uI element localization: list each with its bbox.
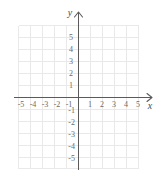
coordinate-plane-svg: -5 -4 -3 -2 -1 1 2 3 4 5 5 4 3 2 1 -1 -2…	[0, 0, 165, 173]
x-tick-label: 5	[136, 100, 140, 109]
x-tick-label: -3	[42, 100, 49, 109]
y-tick-label: 5	[69, 33, 73, 42]
y-tick-label: 1	[69, 81, 73, 90]
y-tick-label: -2	[68, 118, 75, 127]
y-tick-label: 2	[69, 69, 73, 78]
x-tick-label: -4	[30, 100, 37, 109]
y-axis-label: y	[67, 7, 73, 18]
y-tick-label: -3	[68, 130, 75, 139]
x-tick-label: -5	[18, 100, 25, 109]
y-tick-label: 3	[69, 57, 73, 66]
x-tick-label: -2	[54, 100, 61, 109]
x-axis-label: x	[147, 100, 153, 111]
y-tick-label: -5	[68, 154, 75, 163]
x-tick-label: 3	[112, 100, 116, 109]
axis-names-group: x y	[67, 7, 153, 111]
x-tick-label: 4	[124, 100, 128, 109]
x-tick-label: 1	[88, 100, 92, 109]
y-tick-label: -1	[68, 106, 75, 115]
y-tick-label: 4	[69, 45, 73, 54]
coordinate-grid-figure: -5 -4 -3 -2 -1 1 2 3 4 5 5 4 3 2 1 -1 -2…	[0, 0, 165, 173]
axes-group	[14, 12, 152, 170]
y-tick-label: -4	[68, 142, 75, 151]
x-tick-label: 2	[100, 100, 104, 109]
